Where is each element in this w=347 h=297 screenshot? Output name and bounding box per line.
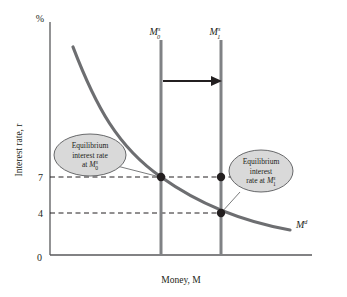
equilibrium-dot-old-rate-new-supply <box>217 173 225 181</box>
money-market-chart: % Interest rate, r Money, M 0 7 4 Ms0 Ms <box>0 0 347 297</box>
y-tick-label-7: 7 <box>38 172 43 183</box>
money-supply-label-m0: Ms0 <box>149 25 161 39</box>
callout-left-line1: Equilibrium <box>72 141 109 150</box>
callout-right: Equilibrium interest rate at Ms1 <box>229 150 293 192</box>
money-market-figure: % Interest rate, r Money, M 0 7 4 Ms0 Ms <box>0 0 347 297</box>
m1-superscript: s <box>218 25 221 32</box>
callout-left: Equilibrium interest rate at Ms0 <box>54 134 126 176</box>
equilibrium-dot-initial <box>157 173 165 181</box>
callout-right-line3-sub: 1 <box>273 181 276 187</box>
money-supply-label-m1: Ms1 <box>209 25 221 39</box>
leader-line-right <box>221 192 240 213</box>
y-tick-label-4: 4 <box>38 208 43 219</box>
callout-left-line3-prefix: at <box>82 160 89 169</box>
callout-right-line2: interest <box>250 167 273 176</box>
equilibrium-dot-new <box>217 209 225 217</box>
m0-subscript: 0 <box>157 33 161 40</box>
origin-label: 0 <box>37 252 42 263</box>
money-supply-lines-group <box>161 40 221 255</box>
md-superscript: d <box>304 218 308 225</box>
money-demand-label: Md <box>295 218 308 230</box>
callout-left-line3-sub: 0 <box>95 165 98 171</box>
m0-superscript: s <box>158 25 161 32</box>
m1-subscript: 1 <box>217 33 220 40</box>
callout-right-line3-prefix: rate at <box>246 176 267 185</box>
callout-left-line2: interest rate <box>72 151 108 160</box>
callout-right-line1: Equilibrium <box>243 157 280 166</box>
y-axis-unit-label: % <box>36 13 44 24</box>
y-axis-title: Interest rate, r <box>14 123 24 177</box>
x-axis-title: Money, M <box>161 275 201 285</box>
guide-lines-group <box>50 177 232 213</box>
supply-shift-arrow <box>163 76 222 86</box>
